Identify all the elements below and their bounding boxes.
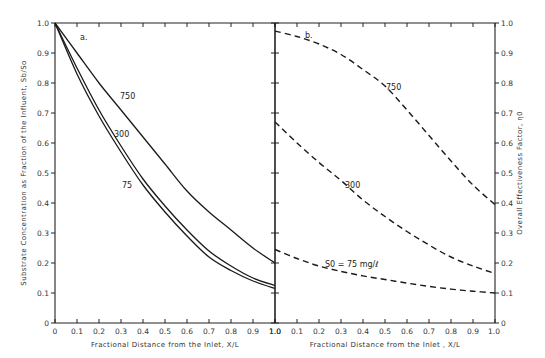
y-tick-label: 0.9 [501,49,513,58]
x-tick-label: 0 [53,327,58,336]
chart-figure: 00.10.20.30.40.50.60.70.80.91.000.10.20.… [0,0,545,358]
series-line-750 [275,31,495,204]
series-label: 750 [386,83,401,92]
series-label: 300 [345,181,360,190]
y-tick-label: 0.4 [501,199,513,208]
y-tick-label: 0.8 [37,79,49,88]
x-tick-label: 1.0 [488,327,500,336]
x-tick-label: 0.5 [379,327,391,336]
x-tick-label: 1.0 [269,327,281,336]
series-line-300 [275,122,495,274]
y-tick-label: 0.7 [501,109,513,118]
y-axis-title: Substrate Concentration as Fraction of t… [20,60,28,285]
x-tick-label: 0.7 [203,327,215,336]
series-line-75 [55,23,275,289]
y-tick-label: 0.9 [37,49,49,58]
y-tick-label: 0.1 [501,289,513,298]
x-tick-label: 0.8 [445,327,457,336]
y-tick-label: 0 [501,319,506,328]
x-tick-label: 0.6 [181,327,193,336]
y-tick-label: 0.7 [37,109,49,118]
y-tick-label: 0.5 [501,169,513,178]
y-tick-label: 0.8 [501,79,513,88]
x-tick-label: 0.3 [335,327,347,336]
y-tick-label: 0.5 [37,169,49,178]
panel-label: a. [80,33,87,42]
series-label: S0 = 75 mg/ℓ [325,260,379,269]
y-tick-label: 1.0 [501,19,513,28]
x-tick-label: 0.8 [225,327,237,336]
x-tick-label: 0.5 [159,327,171,336]
x-tick-label: 0.9 [467,327,479,336]
x-axis-title: Fractional Distance from the Inlet, X/L [91,341,239,349]
y-tick-label: 0.3 [37,229,49,238]
y-tick-label: 0.6 [501,139,513,148]
panel-a: 00.10.20.30.40.50.60.70.80.91.000.10.20.… [20,19,281,349]
x-tick-label: 0.6 [401,327,413,336]
y-tick-label: 0 [44,319,49,328]
x-tick-label: 0.1 [291,327,303,336]
y-tick-label: 0.2 [501,259,513,268]
series-line-750 [55,23,275,263]
y-tick-label: 0.2 [37,259,49,268]
x-tick-label: 0.2 [313,327,325,336]
x-tick-label: 0.4 [357,327,369,336]
y-tick-label: 0.1 [37,289,49,298]
x-tick-label: 0.2 [93,327,105,336]
y-tick-label: 1.0 [37,19,49,28]
panel-b: 1.00.10.20.30.40.50.60.70.80.91.000.10.2… [269,19,524,349]
x-tick-label: 0.7 [423,327,435,336]
x-tick-label: 0.1 [71,327,83,336]
x-tick-label: 0.9 [247,327,259,336]
y-axis-title: Overall Effectiveness Factor, η0 [516,111,524,235]
y-tick-label: 0.6 [37,139,49,148]
series-label: 750 [120,92,135,101]
y-tick-label: 0.3 [501,229,513,238]
series-label: 300 [114,130,129,139]
series-line-s0-75-mg- [275,250,495,294]
x-tick-label: 0.4 [137,327,149,336]
series-label: 75 [122,181,132,190]
y-tick-label: 0.4 [37,199,49,208]
series-line-300 [55,23,275,286]
x-axis-title: Fractional Distance from the Inlet , X/L [310,341,461,349]
x-tick-label: 0.3 [115,327,127,336]
